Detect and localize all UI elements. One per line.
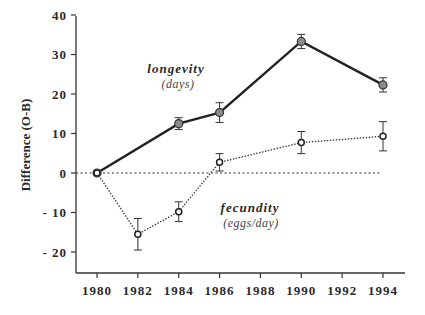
x-ticks: 19801982198419861988199019921994 [82, 273, 398, 298]
data-point-marker [379, 81, 387, 89]
y-tick-label: 0 [60, 166, 68, 181]
data-point-marker [94, 170, 100, 176]
y-tick-label: 30 [52, 47, 67, 62]
data-point-marker [175, 120, 183, 128]
series-fecundity [94, 122, 387, 250]
fecundity-unit: (eggs/day) [223, 216, 279, 230]
longevity-line [97, 41, 383, 173]
data-point-marker [298, 140, 304, 146]
data-point-marker [216, 109, 224, 117]
line-chart: 403020100- 10- 20 1980198219841986198819… [0, 0, 425, 315]
x-tick-label: 1984 [164, 283, 194, 298]
data-point-marker [217, 159, 223, 165]
data-point-marker [135, 231, 141, 237]
data-point-marker [297, 37, 305, 45]
longevity-label: longevity [147, 61, 204, 76]
data-point-marker [380, 133, 386, 139]
longevity-unit: (days) [162, 77, 195, 91]
x-tick-label: 1980 [82, 283, 112, 298]
x-tick-label: 1990 [286, 283, 316, 298]
fecundity-label: fecundity [221, 200, 280, 215]
y-ticks: 403020100- 10- 20 [42, 8, 76, 260]
x-tick-label: 1986 [205, 283, 235, 298]
x-tick-label: 1994 [368, 283, 398, 298]
y-axis-title: Difference (O-B) [18, 99, 33, 192]
data-point-marker [176, 209, 182, 215]
series-longevity [93, 34, 387, 177]
y-tick-label: 20 [52, 87, 67, 102]
y-tick-label: - 10 [42, 205, 67, 220]
y-tick-label: 40 [52, 8, 67, 23]
x-tick-label: 1982 [123, 283, 153, 298]
x-tick-label: 1992 [327, 283, 357, 298]
y-tick-label: - 20 [42, 245, 67, 260]
axes [76, 16, 405, 273]
y-tick-label: 10 [52, 126, 67, 141]
x-tick-label: 1988 [245, 283, 275, 298]
